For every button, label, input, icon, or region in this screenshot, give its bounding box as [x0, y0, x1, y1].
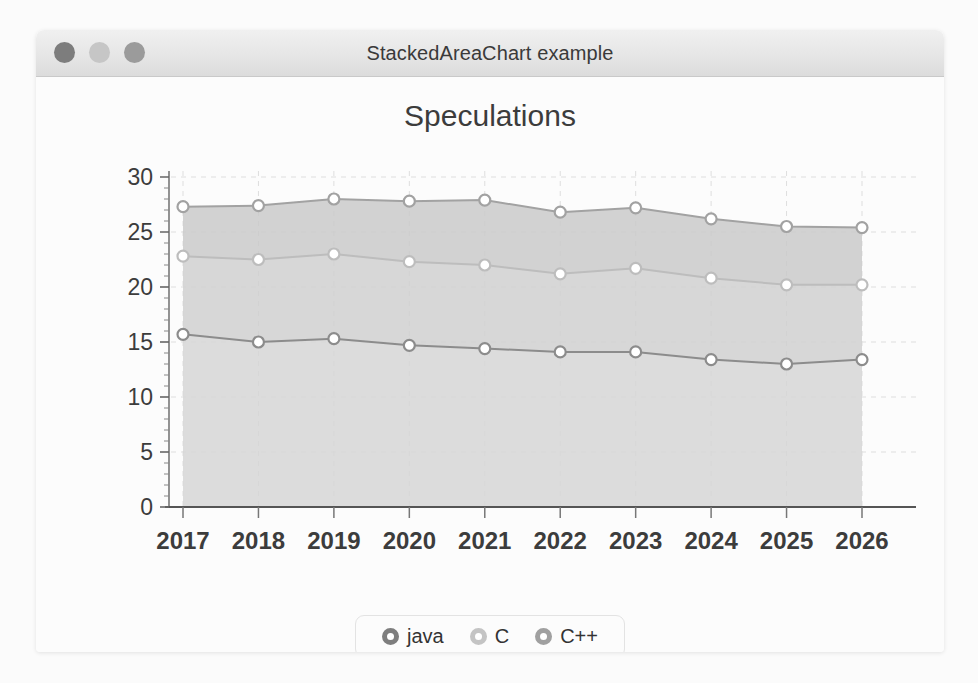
y-tick-label: 0 [140, 494, 153, 520]
data-point[interactable] [857, 354, 868, 365]
application-window: StackedAreaChart example Speculations 05… [36, 30, 944, 652]
legend-label: C [495, 625, 509, 648]
window-titlebar[interactable]: StackedAreaChart example [36, 30, 944, 77]
data-point[interactable] [781, 279, 792, 290]
legend-label: java [407, 625, 444, 648]
data-point[interactable] [857, 279, 868, 290]
data-point[interactable] [630, 346, 641, 357]
screenshot-root: StackedAreaChart example Speculations 05… [0, 0, 978, 683]
data-point[interactable] [630, 263, 641, 274]
data-point[interactable] [781, 221, 792, 232]
data-point[interactable] [479, 343, 490, 354]
x-axis-ticks: 2017201820192020202120222023202420252026 [156, 507, 888, 554]
data-point[interactable] [178, 201, 189, 212]
data-point[interactable] [178, 329, 189, 340]
data-point[interactable] [555, 346, 566, 357]
x-tick-label: 2022 [534, 527, 587, 554]
y-tick-label: 5 [140, 439, 153, 465]
chart-legend: java C C++ [355, 615, 625, 652]
x-tick-label: 2026 [835, 527, 888, 554]
x-tick-label: 2018 [232, 527, 285, 554]
chart-areas [183, 199, 862, 507]
x-tick-label: 2025 [760, 527, 813, 554]
window-title: StackedAreaChart example [36, 30, 944, 76]
data-point[interactable] [706, 213, 717, 224]
window-content: Speculations 051015202530201720182019202… [36, 77, 944, 652]
data-point[interactable] [178, 251, 189, 262]
data-point[interactable] [253, 200, 264, 211]
legend-item-c[interactable]: C [470, 625, 509, 648]
x-tick-label: 2017 [156, 527, 209, 554]
data-point[interactable] [404, 196, 415, 207]
legend-item-java[interactable]: java [382, 625, 444, 648]
legend-marker-icon [382, 628, 399, 645]
y-tick-label: 25 [127, 219, 153, 245]
x-tick-label: 2020 [383, 527, 436, 554]
data-point[interactable] [479, 260, 490, 271]
data-point[interactable] [630, 202, 641, 213]
legend-marker-icon [470, 628, 487, 645]
x-tick-label: 2023 [609, 527, 662, 554]
data-point[interactable] [706, 354, 717, 365]
data-point[interactable] [404, 340, 415, 351]
y-tick-label: 10 [127, 384, 153, 410]
y-tick-label: 20 [127, 274, 153, 300]
data-point[interactable] [253, 254, 264, 265]
data-point[interactable] [404, 256, 415, 267]
legend-item-cpp[interactable]: C++ [535, 625, 598, 648]
data-point[interactable] [781, 359, 792, 370]
x-tick-label: 2024 [684, 527, 738, 554]
data-point[interactable] [857, 222, 868, 233]
y-axis-ticks: 051015202530 [127, 164, 169, 520]
data-point[interactable] [328, 249, 339, 260]
stacked-area-chart: 0510152025302017201820192020202120222023… [36, 149, 944, 579]
data-point[interactable] [706, 273, 717, 284]
data-point[interactable] [328, 333, 339, 344]
legend-marker-icon [535, 628, 552, 645]
data-point[interactable] [328, 194, 339, 205]
data-point[interactable] [555, 268, 566, 279]
data-point[interactable] [479, 195, 490, 206]
y-tick-label: 15 [127, 329, 153, 355]
chart-canvas: 0510152025302017201820192020202120222023… [36, 149, 944, 579]
y-tick-label: 30 [127, 164, 153, 190]
chart-title: Speculations [36, 99, 944, 133]
data-point[interactable] [253, 337, 264, 348]
x-tick-label: 2021 [458, 527, 511, 554]
x-tick-label: 2019 [307, 527, 360, 554]
data-point[interactable] [555, 207, 566, 218]
legend-label: C++ [560, 625, 598, 648]
